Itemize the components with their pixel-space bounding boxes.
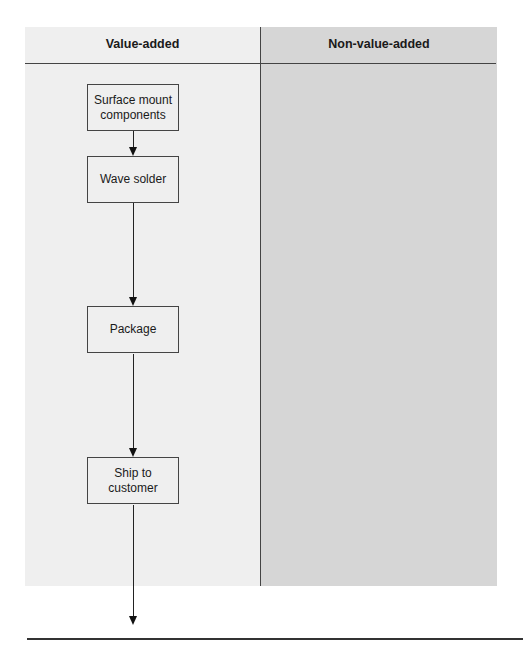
arrow-down-icon <box>129 297 137 306</box>
step-surface-mount: Surface mount components <box>87 84 179 131</box>
non-value-added-lane: Non-value-added <box>260 27 497 586</box>
connector-4 <box>133 505 134 617</box>
arrow-down-icon <box>129 448 137 457</box>
step-label: Package <box>110 322 157 337</box>
caption-rule <box>27 638 523 640</box>
step-label: Surface mount components <box>93 93 173 123</box>
step-package: Package <box>87 306 179 353</box>
step-label: Ship to customer <box>103 466 163 496</box>
arrow-down-icon <box>129 616 137 625</box>
connector-1 <box>133 131 134 148</box>
arrow-down-icon <box>129 147 137 156</box>
step-wave-solder: Wave solder <box>87 156 179 203</box>
value-added-header: Value-added <box>25 37 260 51</box>
step-ship-to-customer: Ship to customer <box>87 457 179 504</box>
connector-2 <box>133 203 134 298</box>
non-value-added-header: Non-value-added <box>261 37 497 51</box>
connector-3 <box>133 354 134 449</box>
step-label: Wave solder <box>100 172 166 187</box>
header-divider <box>25 63 496 64</box>
